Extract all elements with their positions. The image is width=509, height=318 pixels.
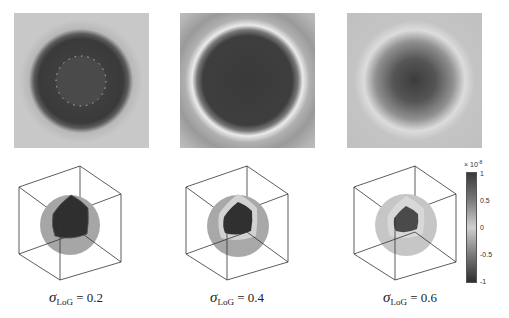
heatmap-sigma-0-2 <box>14 13 149 148</box>
colorbar <box>466 172 477 283</box>
caption-sigma-0-6: σLoG = 0.6 <box>383 289 437 307</box>
colorbar-tick-0: 0 <box>480 224 484 231</box>
colorbar-exponent: × 10-8 <box>464 159 482 168</box>
heatmap-sigma-0-4 <box>180 13 315 148</box>
colorbar-tick-1: 1 <box>480 170 484 177</box>
colorbar-tick-neg-0-5: -0.5 <box>480 251 492 258</box>
colorbar-tick-0-5: 0.5 <box>480 197 490 204</box>
caption-sigma-0-4: σLoG = 0.4 <box>210 289 264 307</box>
colorbar-tick-neg-1: -1 <box>480 278 486 285</box>
caption-sigma-0-2: σLoG = 0.2 <box>49 289 103 307</box>
cube-3d-sigma-0-6 <box>350 162 480 282</box>
heatmap-sigma-0-6 <box>347 13 482 148</box>
cube-3d-sigma-0-4 <box>182 162 312 282</box>
cube-3d-sigma-0-2 <box>15 162 145 282</box>
